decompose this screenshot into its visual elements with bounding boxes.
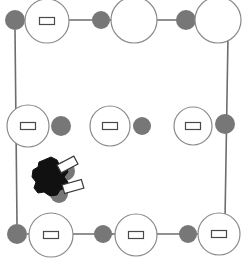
agent-marker-group[interactable] [32,156,84,196]
gray-node-top-left[interactable] [5,10,25,30]
node-tag-mid-left [21,123,36,130]
node-tag-mid-center [103,123,118,130]
gray-node-mid-center[interactable] [133,117,151,135]
gray-node-mid-left[interactable] [51,116,71,136]
gray-node-top-b[interactable] [176,10,196,30]
gray-node-mid-right[interactable] [215,114,235,134]
ring-node-top-mid[interactable] [111,0,157,43]
node-tag-bottom-mid [129,232,144,239]
gray-node-bottom-a[interactable] [94,225,112,243]
gray-node-top-a[interactable] [92,11,110,29]
gray-node-bottom-b[interactable] [179,225,197,243]
diagram-canvas [0,0,247,260]
node-tag-bottom-right [212,231,227,238]
node-tag-mid-right [186,123,201,130]
ring-node-layer [7,0,241,257]
gray-node-bottom-left[interactable] [7,224,27,244]
node-tag-top-left [40,18,55,25]
node-graph-svg [0,0,247,260]
ring-node-top-right[interactable] [195,0,241,43]
node-tag-bottom-left [44,232,59,239]
